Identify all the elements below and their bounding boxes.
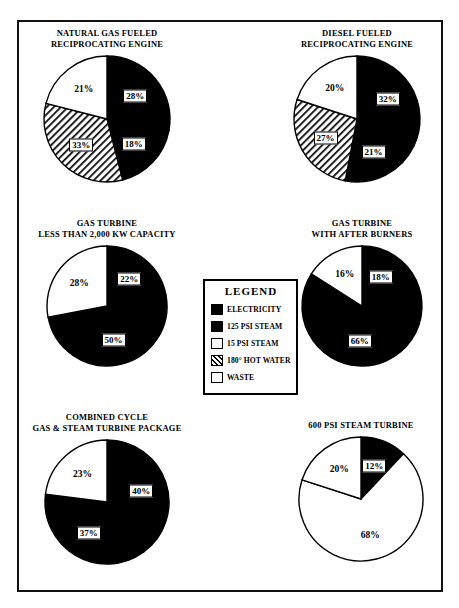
pie-graphic: 22%50%28% <box>45 244 169 368</box>
pie-chart: 600 PSI STEAM TURBINE12%68%20% <box>278 420 444 563</box>
pie-chart: DIESEL FUELEDRECIPROCATING ENGINE32%21%2… <box>272 28 442 184</box>
slice-percent-label: 21% <box>74 84 93 94</box>
chart-title-line: NATURAL GAS FUELED <box>22 28 192 39</box>
chart-title-line: 600 PSI STEAM TURBINE <box>278 420 444 431</box>
chart-title-line: RECIPROCATING ENGINE <box>22 39 192 50</box>
legend-item: WASTE <box>211 369 291 386</box>
slice-percent-label: 37% <box>77 526 101 539</box>
slice-percent-label: 32% <box>376 93 400 106</box>
slice-percent-label: 18% <box>122 138 146 151</box>
pie-graphic: 12%68%20% <box>297 435 425 563</box>
legend-item-label: 125 PSI STEAM <box>227 322 282 331</box>
slice-percent-label: 33% <box>69 138 93 151</box>
chart-title-line: GAS TURBINE <box>282 218 442 229</box>
pie-graphic: 28%18%33%21% <box>42 54 172 184</box>
chart-title: COMBINED CYCLEGAS & STEAM TURBINE PACKAG… <box>16 412 198 434</box>
slice-percent-label: 20% <box>325 83 344 93</box>
pie-chart: NATURAL GAS FUELEDRECIPROCATING ENGINE28… <box>22 28 192 184</box>
legend-item-label: 180° HOT WATER <box>227 356 291 365</box>
slice-percent-label: 16% <box>335 269 354 279</box>
pie-chart: GAS TURBINEWITH AFTER BURNERS18%66%16% <box>282 218 442 368</box>
chart-title-line: GAS & STEAM TURBINE PACKAGE <box>16 423 198 434</box>
slice-percent-label: 28% <box>123 89 147 102</box>
chart-title-line: WITH AFTER BURNERS <box>282 229 442 240</box>
slice-percent-label: 21% <box>362 145 386 158</box>
slice-percent-label: 22% <box>117 273 141 286</box>
chart-title-line: DIESEL FUELED <box>272 28 442 39</box>
chart-title: DIESEL FUELEDRECIPROCATING ENGINE <box>272 28 442 50</box>
legend-swatch-black <box>211 321 223 332</box>
chart-title-line: GAS TURBINE <box>22 218 192 229</box>
pie-chart: COMBINED CYCLEGAS & STEAM TURBINE PACKAG… <box>16 412 198 566</box>
slice-percent-label: 68% <box>361 530 380 540</box>
chart-title-line: LESS THAN 2,000 KW CAPACITY <box>22 229 192 240</box>
slice-percent-label: 66% <box>348 334 372 347</box>
legend-swatch-hatch <box>211 355 223 366</box>
chart-title: 600 PSI STEAM TURBINE <box>278 420 444 431</box>
slice-percent-label: 28% <box>70 278 89 288</box>
legend-item: ELECTRICITY <box>211 301 291 318</box>
slice-percent-label: 12% <box>362 459 386 472</box>
slice-percent-label: 23% <box>73 469 92 479</box>
legend-box: LEGEND ELECTRICITY125 PSI STEAM15 PSI ST… <box>203 279 298 395</box>
legend-swatch-white <box>211 372 223 383</box>
chart-title-line: RECIPROCATING ENGINE <box>272 39 442 50</box>
legend-item-label: 15 PSI STEAM <box>227 339 278 348</box>
legend-item: 15 PSI STEAM <box>211 335 291 352</box>
legend-item-label: ELECTRICITY <box>227 305 281 314</box>
slice-percent-label: 40% <box>129 484 153 497</box>
legend-item-label: WASTE <box>227 373 254 382</box>
slice-percent-label: 18% <box>369 270 393 283</box>
figure-border: NATURAL GAS FUELEDRECIPROCATING ENGINE28… <box>17 20 443 592</box>
legend-title: LEGEND <box>211 285 291 297</box>
slice-percent-label: 50% <box>102 334 126 347</box>
slice-percent-label: 20% <box>330 464 349 474</box>
chart-title: GAS TURBINEWITH AFTER BURNERS <box>282 218 442 240</box>
legend-rows: ELECTRICITY125 PSI STEAM15 PSI STEAM180°… <box>211 301 291 386</box>
chart-title-line: COMBINED CYCLE <box>16 412 198 423</box>
chart-title: NATURAL GAS FUELEDRECIPROCATING ENGINE <box>22 28 192 50</box>
figure-page: NATURAL GAS FUELEDRECIPROCATING ENGINE28… <box>0 0 459 608</box>
legend-item: 125 PSI STEAM <box>211 318 291 335</box>
pie-chart: GAS TURBINELESS THAN 2,000 KW CAPACITY22… <box>22 218 192 368</box>
legend-item: 180° HOT WATER <box>211 352 291 369</box>
pie-graphic: 32%21%27%20% <box>292 54 422 184</box>
pie-graphic: 40%37%23% <box>43 438 171 566</box>
legend-swatch-white <box>211 338 223 349</box>
legend-swatch-black <box>211 304 223 315</box>
chart-title: GAS TURBINELESS THAN 2,000 KW CAPACITY <box>22 218 192 240</box>
pie-graphic: 18%66%16% <box>300 244 424 368</box>
slice-percent-label: 27% <box>314 131 338 144</box>
